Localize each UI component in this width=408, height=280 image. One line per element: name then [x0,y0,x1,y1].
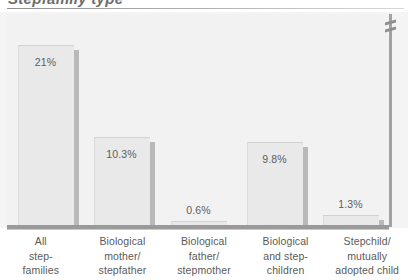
axis-break-segment-bottom [385,26,396,32]
bar-value-label: 0.6% [171,204,226,216]
x-axis-label-line: children [245,263,327,278]
axis-break-icon [385,20,396,33]
chart-screenshot: Stepfamily type 21%10.3%0.6%9.8%1.3% All… [0,0,408,280]
x-axis-label-line: All [0,234,82,249]
x-axis-labels: Allstep-familiesBiologicalmother/stepfat… [0,234,408,280]
x-axis-label-line: stepmother [163,263,245,278]
x-axis-line [7,225,389,229]
axis-break-segment-top [385,19,396,25]
bar-value-label: 21% [18,56,73,68]
bar[interactable] [18,45,74,227]
x-axis-label-line: father/ [163,249,245,264]
x-axis-label-3: Biologicaland step-children [245,234,327,280]
x-axis-label-line: step- [0,249,82,264]
bar-value-label: 10.3% [94,148,149,160]
x-axis-label-1: Biologicalmother/stepfather [82,234,164,280]
bar-value-label: 1.3% [323,198,378,210]
x-axis-label-line: Stepchild/ [326,234,408,249]
x-axis-label-line: families [0,263,82,278]
x-axis-label-line: mutually [326,249,408,264]
x-axis-label-4: Stepchild/mutuallyadopted child [326,234,408,280]
x-axis-label-line: Biological [82,234,164,249]
x-axis-label-line: Biological [245,234,327,249]
x-axis-label-0: Allstep-families [0,234,82,280]
x-axis-label-line: stepfather [82,263,164,278]
x-axis-label-line: adopted child [326,263,408,278]
x-axis-label-line: mother/ [82,249,164,264]
bar-value-label: 9.8% [247,153,302,165]
x-axis-label-2: Biologicalfather/stepmother [163,234,245,280]
x-axis-label-line: Biological [163,234,245,249]
y-axis-right-line [389,14,392,227]
x-axis-label-line: and step- [245,249,327,264]
